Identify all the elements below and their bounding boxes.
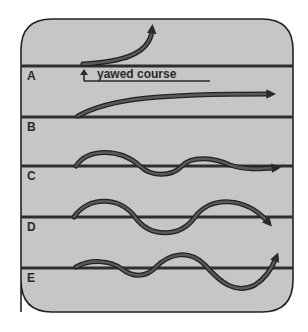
row-label-e: E <box>27 271 35 285</box>
row-label-c: C <box>27 169 36 183</box>
row-label-d: D <box>27 220 36 234</box>
course-stability-diagram: A B C D E yawed course <box>0 0 308 332</box>
row-label-a: A <box>27 69 36 83</box>
row-label-b: B <box>27 120 36 134</box>
annotation-label: yawed course <box>97 67 177 81</box>
